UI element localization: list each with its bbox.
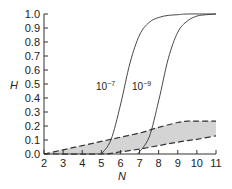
x-tick-label: 11 (210, 157, 221, 169)
curve-label-1e-7: 10−7 (96, 80, 115, 92)
y-tick-label: 0.3 (25, 106, 40, 118)
y-tick-label: 0.4 (25, 92, 40, 104)
y-tick-label: 0.7 (25, 50, 40, 62)
x-tick-label: 3 (60, 157, 66, 169)
y-tick-label: 0.2 (25, 120, 40, 132)
x-tick-label: 9 (175, 157, 181, 169)
y-tick-label: 0.5 (25, 78, 40, 90)
y-tick-label: 0.9 (25, 22, 40, 34)
y-tick-label: 0.6 (25, 64, 40, 76)
curve-label-1e-9: 10−9 (132, 80, 151, 92)
x-tick-label: 5 (98, 157, 104, 169)
x-tick-label: 10 (191, 157, 203, 169)
x-tick-label: 7 (136, 157, 142, 169)
y-axis-label: H (10, 79, 18, 91)
shaded-band (44, 121, 216, 154)
x-tick-label: 2 (41, 157, 47, 169)
y-tick-label: 0.0 (25, 148, 40, 160)
y-tick-label: 0.8 (25, 36, 40, 48)
x-tick-label: 6 (117, 157, 123, 169)
x-tick-label: 4 (79, 157, 85, 169)
chart: 0.00.10.20.30.40.50.60.70.80.91.02345678… (0, 0, 232, 189)
y-tick-label: 0.1 (25, 134, 40, 146)
y-tick-label: 1.0 (25, 8, 40, 20)
x-axis-label: N (118, 170, 126, 182)
x-tick-label: 8 (156, 157, 162, 169)
